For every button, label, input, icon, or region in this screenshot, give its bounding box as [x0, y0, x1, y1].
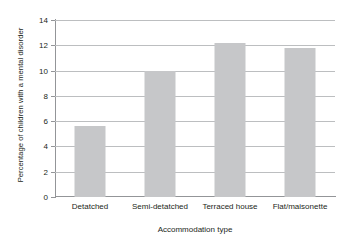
plot-area: 02468101214 — [55, 20, 335, 197]
x-axis-title: Accommodation type — [55, 225, 335, 234]
bar[interactable] — [215, 43, 246, 197]
bar-slot — [195, 20, 265, 197]
y-tick-label: 6 — [44, 117, 48, 126]
x-axis-tick-labels: DetatchedSemi-detatchedTerraced houseFla… — [55, 200, 335, 214]
x-tick-label: Flat/maisonette — [265, 200, 335, 213]
x-tick-label: Semi-detatched — [125, 200, 195, 213]
x-tick-label: Detatched — [55, 200, 125, 213]
bar[interactable] — [75, 126, 106, 197]
bar[interactable] — [285, 48, 316, 197]
y-axis-title: Percentage of children with a mental dis… — [14, 5, 28, 205]
y-tick-label: 12 — [39, 41, 48, 50]
bar-slot — [265, 20, 335, 197]
y-tick-label: 8 — [44, 91, 48, 100]
y-tick-label: 0 — [44, 193, 48, 202]
bar[interactable] — [145, 71, 176, 197]
bar-chart: Percentage of children with a mental dis… — [0, 0, 348, 250]
y-tick-label: 4 — [44, 142, 48, 151]
y-tick-label: 2 — [44, 167, 48, 176]
y-tick-mark — [51, 197, 55, 198]
bar-slot — [55, 20, 125, 197]
x-tick-label: Terraced house — [195, 200, 265, 213]
bars-group — [55, 20, 335, 197]
y-tick-label: 14 — [39, 16, 48, 25]
bar-slot — [125, 20, 195, 197]
y-tick-label: 10 — [39, 66, 48, 75]
